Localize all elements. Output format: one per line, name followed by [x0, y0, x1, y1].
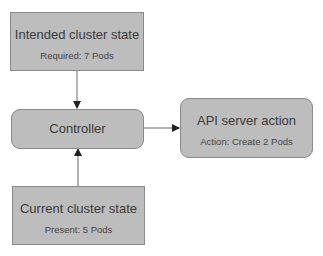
current-state-title: Current cluster state — [13, 201, 144, 216]
current-cluster-state-box: Current cluster state Present: 5 Pods — [12, 186, 145, 245]
controller-title: Controller — [12, 110, 143, 148]
intended-state-title: Intended cluster state — [11, 27, 143, 42]
controller-box: Controller — [11, 109, 144, 149]
api-action-title: API server action — [181, 113, 312, 128]
api-action-subtitle: Action: Create 2 Pods — [181, 136, 312, 147]
intended-cluster-state-box: Intended cluster state Required: 7 Pods — [10, 12, 144, 71]
api-server-action-box: API server action Action: Create 2 Pods — [180, 98, 313, 158]
intended-state-subtitle: Required: 7 Pods — [11, 50, 143, 61]
current-state-subtitle: Present: 5 Pods — [13, 224, 144, 235]
